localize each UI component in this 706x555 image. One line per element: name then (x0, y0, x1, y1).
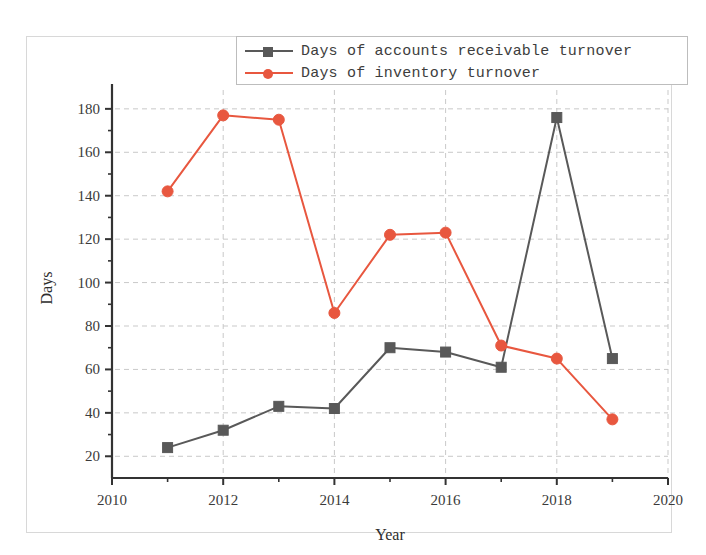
legend-item-accounts-receivable: Days of accounts receivable turnover (237, 40, 687, 62)
y-tick-label: 140 (78, 188, 101, 204)
x-tick-label: 2010 (97, 492, 127, 508)
data-point-marker (274, 401, 284, 411)
series-line (168, 115, 613, 419)
data-point-marker (385, 229, 396, 240)
data-point-marker (441, 347, 451, 357)
data-point-marker (496, 340, 507, 351)
chart-legend: Days of accounts receivable turnover Day… (236, 36, 688, 85)
y-tick-label: 100 (78, 275, 101, 291)
y-tick-label: 80 (85, 318, 100, 334)
data-point-marker (551, 353, 562, 364)
data-point-marker (218, 425, 228, 435)
y-tick-label: 120 (78, 231, 101, 247)
data-point-marker (552, 113, 562, 123)
legend-swatch-circle-icon (245, 65, 293, 81)
y-tick-label: 160 (78, 144, 101, 160)
y-tick-label: 60 (85, 361, 100, 377)
axes-lines-group (112, 84, 668, 478)
x-tick-label: 2020 (653, 492, 683, 508)
data-point-marker (385, 343, 395, 353)
legend-label-accounts-receivable: Days of accounts receivable turnover (301, 43, 632, 60)
data-point-marker (607, 354, 617, 364)
legend-swatch-square-icon (245, 43, 293, 59)
figure-canvas: 2040608010012014016018020102012201420162… (0, 0, 706, 555)
data-point-marker (496, 362, 506, 372)
data-point-marker (163, 443, 173, 453)
x-tick-label: 2018 (542, 492, 572, 508)
data-point-marker (273, 114, 284, 125)
data-point-marker (329, 307, 340, 318)
y-tick-label: 40 (85, 405, 100, 421)
data-point-marker (218, 110, 229, 121)
x-tick-label: 2012 (208, 492, 238, 508)
y-axis-title: Days (38, 272, 56, 305)
legend-label-inventory: Days of inventory turnover (301, 65, 540, 82)
y-tick-label: 180 (78, 101, 101, 117)
data-point-marker (607, 414, 618, 425)
x-tick-label: 2016 (431, 492, 462, 508)
gridlines-group (106, 90, 668, 478)
legend-item-inventory: Days of inventory turnover (237, 62, 687, 84)
data-point-marker (162, 186, 173, 197)
x-axis-title: Year (375, 526, 405, 543)
x-tick-label: 2014 (319, 492, 350, 508)
axis-ticks-group (105, 109, 668, 485)
y-tick-label: 20 (85, 448, 100, 464)
data-point-marker (329, 404, 339, 414)
data-series-group (162, 110, 618, 453)
data-point-marker (440, 227, 451, 238)
